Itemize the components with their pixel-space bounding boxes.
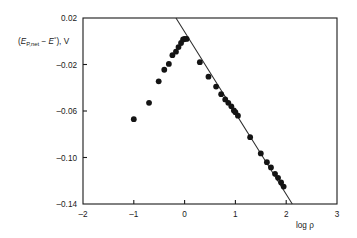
y-tick-label: –0.14 bbox=[57, 200, 78, 209]
y-tick-label: –0.02 bbox=[57, 61, 78, 70]
y-tick-label: 0.02 bbox=[61, 14, 77, 23]
data-point bbox=[184, 36, 190, 42]
x-axis-label: log ρ bbox=[296, 221, 314, 230]
data-point bbox=[156, 78, 162, 84]
x-tick-label: –1 bbox=[129, 210, 139, 219]
data-point bbox=[264, 159, 270, 165]
scatter-plot: –2–10123 0.02–0.02–0.06–0.10–0.14 (EP,ne… bbox=[0, 0, 357, 238]
y-axis-label: (EP,net − E°), V bbox=[18, 36, 70, 47]
data-point bbox=[161, 67, 167, 73]
x-tick-label: –2 bbox=[78, 210, 88, 219]
x-tick-label: 2 bbox=[284, 210, 289, 219]
x-tick-label: 0 bbox=[182, 210, 187, 219]
y-tick-label: –0.10 bbox=[57, 154, 78, 163]
data-point bbox=[146, 100, 152, 106]
data-point bbox=[258, 151, 264, 157]
data-point bbox=[166, 61, 172, 67]
data-point bbox=[213, 84, 219, 90]
data-point bbox=[218, 91, 224, 97]
y-tick-label: –0.06 bbox=[57, 107, 78, 116]
data-point bbox=[197, 59, 203, 65]
data-point bbox=[235, 113, 241, 119]
data-point bbox=[268, 164, 274, 170]
data-point bbox=[281, 184, 287, 190]
data-point bbox=[131, 116, 137, 122]
figure-container: –2–10123 0.02–0.02–0.06–0.10–0.14 (EP,ne… bbox=[0, 0, 357, 238]
data-point bbox=[206, 74, 212, 80]
data-point bbox=[247, 134, 253, 140]
x-tick-label: 3 bbox=[335, 210, 340, 219]
x-tick-label: 1 bbox=[233, 210, 238, 219]
